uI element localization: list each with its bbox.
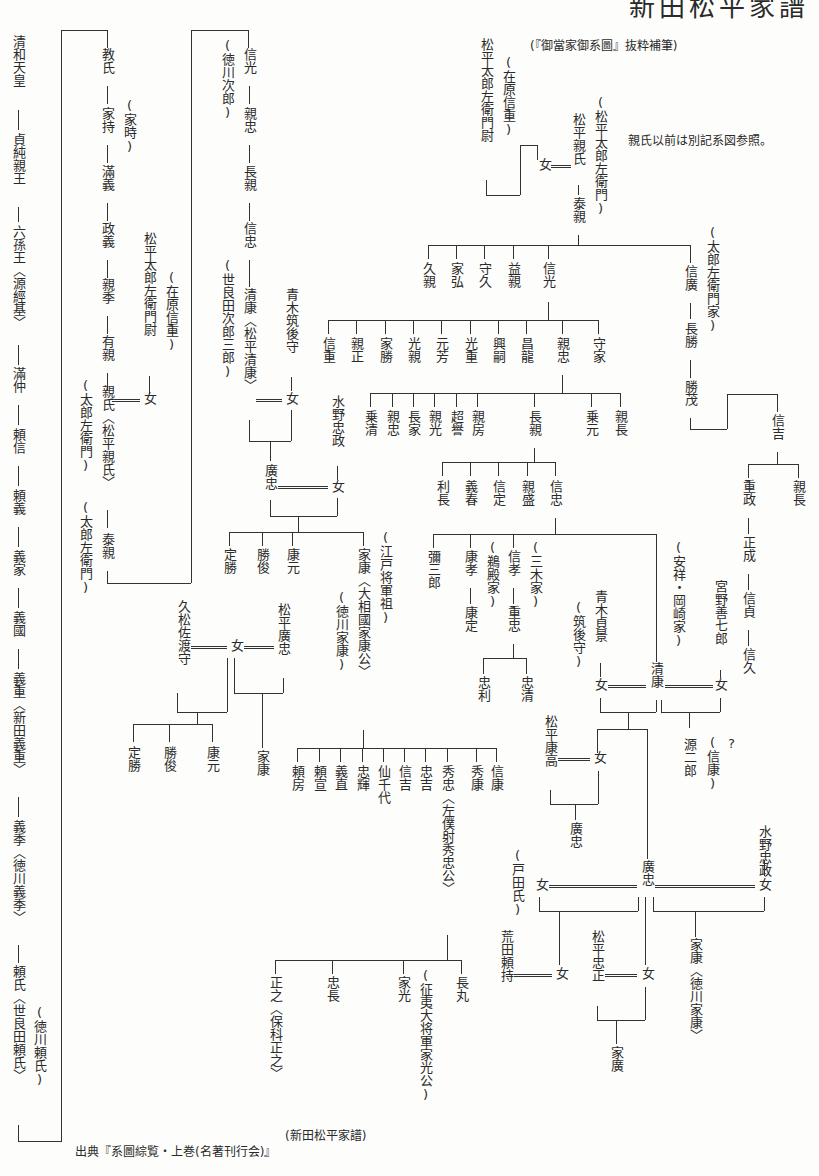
connector-line [447, 748, 448, 762]
connector-line [727, 394, 777, 395]
connector-line [578, 185, 579, 195]
connector-line [234, 693, 283, 694]
connector-line [661, 712, 720, 713]
connector-line [107, 583, 191, 584]
person-yoshikuni: 義國 [9, 611, 27, 637]
connector-line [608, 685, 646, 688]
connector-line [18, 945, 19, 963]
source-citation: 出典『系圖綜覧・上巻(名著刊行会)』 [75, 1144, 276, 1160]
connector-line [270, 441, 271, 461]
person-genjiro: 源二郎 [680, 738, 698, 777]
connector-line [616, 1020, 617, 1044]
connector-line [559, 911, 560, 965]
connector-line [720, 670, 721, 678]
connector-line [470, 320, 471, 334]
connector-line [18, 1125, 19, 1141]
note-taro-zaemon-ke: (太郎左衛門家) [703, 225, 721, 333]
note-anjo-okazaki-ke: (安祥・岡崎家) [669, 540, 687, 648]
person-wife-aoki: 女 [591, 678, 609, 691]
connector-line [591, 393, 592, 407]
connector-line [442, 462, 443, 476]
son-okitsugu: 興嗣 [489, 337, 507, 363]
son-hisachika: 久親 [419, 262, 437, 288]
connector-line [461, 960, 462, 974]
connector-line [249, 86, 250, 104]
person-hisamatsu-wife: 女 [227, 639, 245, 652]
connector-line [558, 758, 590, 761]
connector-line [562, 320, 563, 334]
connector-line [18, 110, 19, 130]
connector-line [413, 393, 414, 407]
person-seiwa: 清和天皇 [9, 35, 27, 87]
connector-line [18, 1141, 61, 1142]
person-mizuno-tadamasa: 水野忠政 [328, 395, 346, 447]
connector-line [18, 466, 19, 486]
connector-line [434, 393, 435, 407]
connector-line [283, 678, 284, 693]
connector-line [695, 911, 696, 937]
person-aoki-chikugonokami: 青木筑後守 [282, 288, 300, 353]
person-nobuyoshi: 信吉 [768, 414, 786, 440]
connector-line [600, 698, 601, 712]
connector-line [562, 375, 563, 393]
note-toda-shi: (戸田氏) [508, 848, 526, 917]
connector-line [107, 145, 108, 163]
connector-line [645, 897, 646, 965]
connector-line [428, 245, 690, 246]
son-chikatada-2: 親忠 [383, 410, 401, 436]
note-taro-zaemon-2: (太郎左衛門) [76, 500, 94, 595]
connector-line [61, 30, 107, 31]
connector-line [690, 303, 691, 319]
person-nobutada: 信忠 [240, 222, 258, 248]
person-hirotada-small: 廣忠 [566, 822, 584, 848]
person-tadakiyo: 忠清 [517, 676, 535, 702]
connector-line [433, 534, 656, 535]
connector-line [18, 207, 19, 222]
connector-line [61, 30, 62, 1142]
note-chikugonokami: (筑後守) [569, 600, 587, 669]
connector-line [605, 974, 637, 977]
son-motoyoshi: 元芳 [432, 337, 450, 363]
connector-line [370, 393, 371, 407]
person-yoshisue: 義季〈徳川義季〉 [9, 820, 27, 924]
connector-line [340, 748, 341, 762]
connector-line [298, 516, 299, 532]
connector-line [133, 724, 212, 725]
connector-line [177, 693, 178, 712]
connector-line [319, 748, 320, 762]
connector-line [363, 730, 364, 748]
note-matsudaira-taro-zaemon: (松平太郎左衛門) [591, 95, 609, 216]
connector-line [628, 712, 629, 729]
note-seii-taishogun: (征夷大将軍家光公) [416, 968, 434, 1102]
person-hisamatsu-sadonokami: 久松佐渡守 [174, 600, 192, 665]
note-ietoki: (家時) [120, 98, 138, 154]
person-chikanaga-right: 親長 [789, 480, 807, 506]
connector-line [133, 724, 134, 742]
son-senchiyo: 仙千代 [374, 765, 392, 804]
connector-line [486, 195, 520, 196]
connector-line [665, 685, 713, 688]
person-yoriuji: 頼氏〈世良田頼氏〉 [9, 965, 27, 1082]
connector-line [598, 320, 599, 334]
connector-line [425, 748, 426, 762]
person-tadatoshi: 忠利 [474, 676, 492, 702]
connector-line [278, 486, 328, 489]
person-aoki-sadakage: 青木貞景 [591, 590, 609, 642]
child-yasumoto-h: 康元 [203, 746, 221, 772]
person-yoshiie: 義家 [9, 550, 27, 576]
son-chikatada: 親忠 [553, 337, 571, 363]
connector-line [597, 1020, 645, 1021]
connector-line [332, 960, 333, 974]
person-mizuno-wife: 女 [755, 878, 773, 891]
page-title: 新田松平家譜 [629, 0, 809, 23]
note-ariwara-top: (在原信重) [499, 55, 517, 137]
connector-line [107, 316, 108, 334]
connector-line [513, 534, 514, 548]
connector-line [107, 510, 108, 528]
connector-line [212, 724, 213, 742]
son-yasaburo: 彌三郎 [424, 550, 442, 589]
person-matsudaira-yasutaka: 松平康高 [541, 715, 559, 767]
connector-line [656, 700, 657, 712]
connector-line [291, 377, 292, 391]
son-tadanaga: 忠長 [323, 976, 341, 1002]
